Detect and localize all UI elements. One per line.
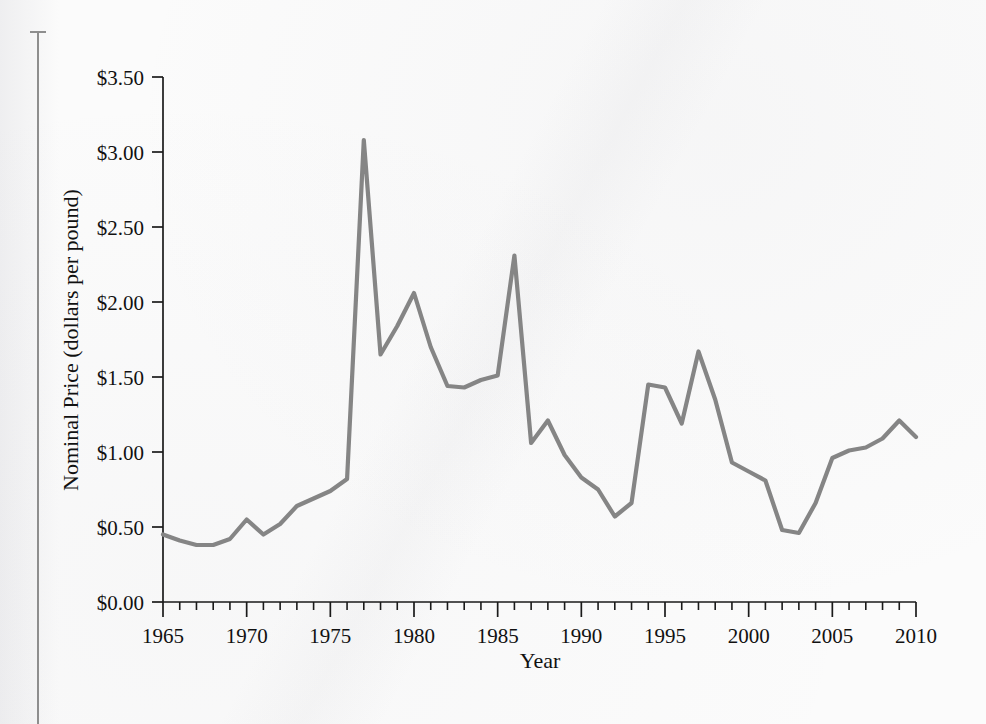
price-series-line: [163, 140, 916, 545]
y-axis-group: $0.00$0.50$1.00$1.50$2.00$2.50$3.00$3.50: [97, 66, 163, 615]
x-axis-title: Year: [520, 648, 561, 673]
y-tick-label: $3.00: [97, 141, 144, 165]
y-tick-label: $3.50: [97, 66, 144, 90]
y-tick-label: $0.00: [97, 591, 144, 615]
y-tick-label: $2.00: [97, 291, 144, 315]
x-tick-label: 1970: [226, 624, 268, 648]
x-tick-label: 1980: [393, 624, 435, 648]
y-tick-label: $0.50: [97, 516, 144, 540]
y-axis-title: Nominal Price (dollars per pound): [58, 189, 83, 491]
y-tick-label: $1.50: [97, 366, 144, 390]
x-axis-tick-labels: 1965197019751980198519901995200020052010: [142, 624, 937, 648]
y-axis-ticks: [152, 77, 163, 602]
x-tick-label: 2010: [895, 624, 937, 648]
chart-page: $0.00$0.50$1.00$1.50$2.00$2.50$3.00$3.50…: [0, 0, 986, 724]
plot-area: [163, 140, 916, 545]
x-axis-major-ticks: [163, 602, 916, 617]
x-tick-label: 1995: [644, 624, 686, 648]
y-axis-tick-labels: $0.00$0.50$1.00$1.50$2.00$2.50$3.00$3.50: [97, 66, 144, 615]
x-tick-label: 1975: [309, 624, 351, 648]
x-tick-label: 2005: [811, 624, 853, 648]
x-tick-label: 1985: [477, 624, 519, 648]
x-axis-group: 1965197019751980198519901995200020052010: [142, 602, 937, 648]
line-chart: $0.00$0.50$1.00$1.50$2.00$2.50$3.00$3.50…: [0, 0, 986, 724]
x-tick-label: 2000: [728, 624, 770, 648]
x-tick-label: 1990: [560, 624, 602, 648]
x-axis-minor-ticks: [180, 602, 900, 610]
x-tick-label: 1965: [142, 624, 184, 648]
y-tick-label: $2.50: [97, 216, 144, 240]
y-tick-label: $1.00: [97, 441, 144, 465]
